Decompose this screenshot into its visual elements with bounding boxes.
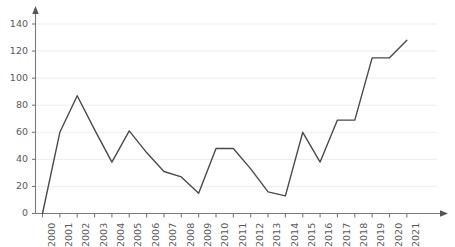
- x-tick-label: 2016: [324, 222, 334, 246]
- x-tick-marks-group: [43, 214, 407, 218]
- x-tick-label: 2019: [376, 222, 386, 246]
- x-tick-label: 2013: [272, 222, 282, 246]
- y-tick-label: 20: [2, 181, 28, 191]
- x-tick-label: 2015: [307, 222, 317, 246]
- x-tick-label: 2006: [151, 222, 161, 246]
- x-tick-label: 2000: [47, 222, 57, 246]
- x-tick-label: 2020: [394, 222, 404, 246]
- y-tick-label: 120: [2, 46, 28, 56]
- x-tick-label: 2012: [255, 222, 265, 246]
- x-tick-label: 2009: [203, 222, 213, 246]
- y-tick-label: 80: [2, 100, 28, 110]
- y-tick-label: 140: [2, 19, 28, 29]
- gridlines-group: [36, 24, 438, 186]
- x-tick-label: 2007: [168, 222, 178, 246]
- x-tick-label: 2003: [99, 222, 109, 246]
- x-tick-label: 2010: [220, 222, 230, 246]
- y-tick-label: 0: [2, 208, 28, 218]
- y-tick-label: 100: [2, 73, 28, 83]
- x-axis-arrow-icon: [440, 210, 448, 216]
- x-tick-label: 2018: [359, 222, 369, 246]
- x-tick-label: 2011: [238, 222, 248, 246]
- y-tick-label: 60: [2, 127, 28, 137]
- axes-group: [32, 6, 448, 217]
- x-tick-label: 2001: [64, 222, 74, 246]
- x-tick-label: 2014: [290, 222, 300, 246]
- x-tick-label: 2017: [342, 222, 352, 246]
- x-tick-label: 2008: [186, 222, 196, 246]
- x-tick-label: 2002: [81, 222, 91, 246]
- x-tick-label: 2005: [133, 222, 143, 246]
- y-axis-arrow-icon: [32, 6, 38, 14]
- x-tick-label: 2021: [411, 222, 421, 246]
- x-tick-label: 2004: [116, 222, 126, 246]
- data-series-line: [43, 40, 407, 213]
- y-tick-label: 40: [2, 154, 28, 164]
